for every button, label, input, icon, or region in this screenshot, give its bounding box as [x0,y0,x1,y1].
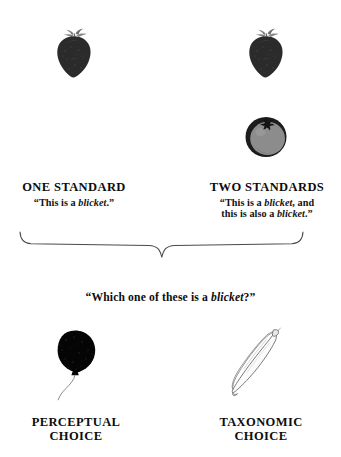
choice-label-perceptual: PERCEPTUAL CHOICE [0,415,152,443]
choice-label-line-1: TAXONOMIC [185,415,337,429]
utterance-one-standard: “This is a blicket.” [0,197,148,208]
utterance-emphasis: blicket [277,208,305,219]
utterance-emphasis: blicket [78,197,106,208]
utterance-text-part: , and [292,197,314,208]
utterance-text-part: “This is a [34,197,78,208]
figure-canvas: ONE STANDARD “This is a blicket.” TWO ST… [0,0,341,457]
question-emphasis: blicket [211,291,244,304]
banana-icon [226,326,286,404]
utterance-line-2: this is also a blicket.” [193,208,341,219]
utterance-text-part: .” [305,208,313,219]
question-text-part: ?” [244,291,256,304]
utterance-text-part: .” [106,197,114,208]
tomato-icon [243,110,289,162]
choice-label-taxonomic: TAXONOMIC CHOICE [185,415,337,443]
choice-label-line-1: PERCEPTUAL [0,415,152,429]
condition-label-two-standards: TWO STANDARDS [193,180,341,194]
utterance-line-1: “This is a blicket, and [193,197,341,208]
utterance-text-part: this is also a [221,208,277,219]
utterance-emphasis: blicket [264,197,292,208]
choice-label-line-2: CHOICE [0,429,152,443]
question-prompt: “Which one of these is a blicket?” [0,291,341,304]
utterance-text-part: “This is a [220,197,264,208]
choice-label-line-2: CHOICE [185,429,337,443]
condition-label-one-standard: ONE STANDARD [0,180,148,194]
utterance-two-standards: “This is a blicket, and this is also a b… [193,197,341,220]
strawberry-icon [242,24,288,84]
curly-brace [14,228,314,266]
question-text-part: “Which one of these is a [86,291,211,304]
strawberry-icon [50,24,96,84]
balloon-icon [48,326,104,404]
